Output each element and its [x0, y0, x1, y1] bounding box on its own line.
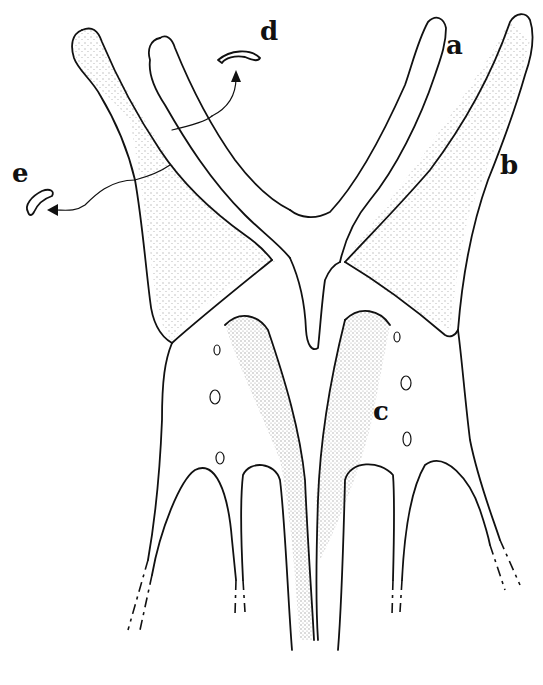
- arrow-left-icon: [47, 204, 58, 216]
- label-c: c: [373, 398, 389, 424]
- label-e: e: [12, 160, 29, 186]
- basal-plate: [148, 311, 500, 640]
- label-a: a: [446, 32, 463, 58]
- label-b: b: [500, 152, 518, 178]
- arrow-up-icon: [231, 70, 241, 82]
- cross-section-e: [27, 180, 135, 216]
- cross-section-d: [212, 51, 260, 116]
- left-outer-horn: [72, 29, 275, 344]
- label-d: d: [260, 18, 278, 44]
- anatomical-figure: [0, 0, 543, 685]
